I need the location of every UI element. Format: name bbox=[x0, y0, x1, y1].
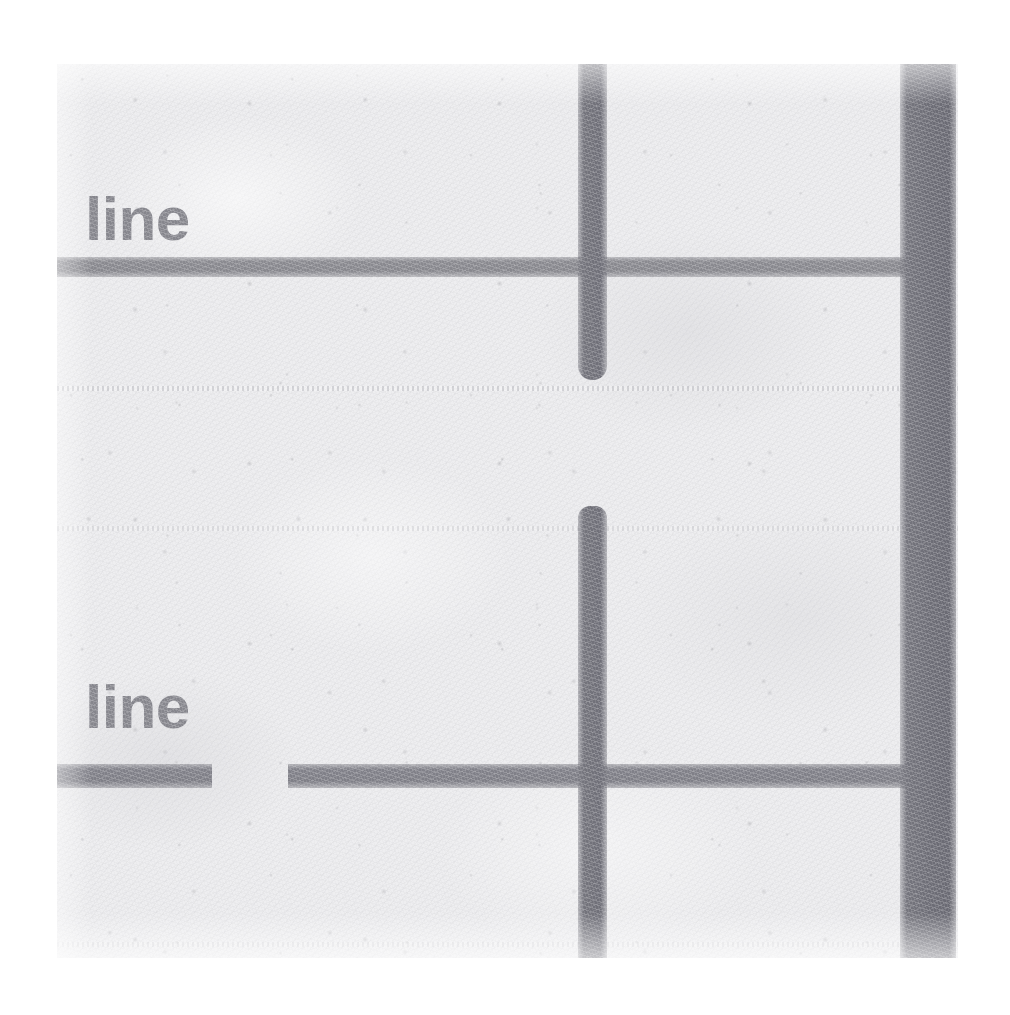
fabric-swatch: line line bbox=[57, 64, 958, 958]
stitched-seam-middle bbox=[57, 526, 958, 531]
fabric-tone-variation bbox=[57, 64, 958, 958]
stitched-seam-upper bbox=[57, 386, 958, 391]
vertical-rule-lower bbox=[578, 506, 607, 958]
label-line-bottom: line bbox=[85, 676, 190, 738]
vertical-band-right-edge bbox=[900, 64, 956, 958]
image-canvas: line line bbox=[0, 0, 1010, 1015]
label-line-top: line bbox=[85, 188, 190, 250]
vertical-rule-upper bbox=[578, 64, 607, 380]
stitched-seam-lower bbox=[57, 942, 958, 947]
horizontal-rule-top bbox=[57, 257, 919, 277]
horizontal-rule-bottom-left bbox=[57, 764, 212, 788]
